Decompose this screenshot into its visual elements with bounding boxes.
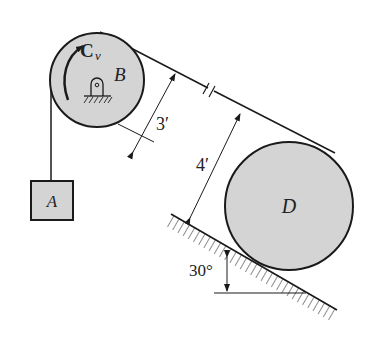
couple-subscript: v <box>95 48 101 63</box>
dim-3-label: 3′ <box>156 114 169 134</box>
pulley-d: D <box>225 142 353 270</box>
pulley-d-label: D <box>281 195 297 217</box>
block-a: A <box>31 181 73 220</box>
diagram-canvas: C v B 3′ A D 4′ 30° <box>0 0 366 338</box>
block-a-label: A <box>46 192 58 211</box>
couple-label: C <box>80 40 94 61</box>
extension-line <box>118 124 154 142</box>
dim-4-label: 4′ <box>196 155 209 175</box>
angle-label: 30° <box>189 261 213 280</box>
angle-30: 30° <box>189 257 227 291</box>
pulley-b-label: B <box>114 64 126 85</box>
pulley-b: C v B <box>50 33 144 127</box>
